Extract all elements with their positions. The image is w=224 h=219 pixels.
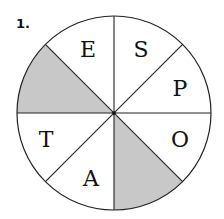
segment-letter-o: O <box>171 127 189 152</box>
shaded-sector-left-upper <box>17 44 114 113</box>
wheel-center-dot <box>112 111 116 115</box>
segment-letter-p: P <box>173 76 188 101</box>
segment-letter-e: E <box>80 37 96 62</box>
segment-letter-t: T <box>39 127 54 152</box>
segment-letter-a: A <box>82 166 100 191</box>
letter-wheel: E S P O A T <box>0 0 224 219</box>
segment-letter-s: S <box>133 37 148 62</box>
